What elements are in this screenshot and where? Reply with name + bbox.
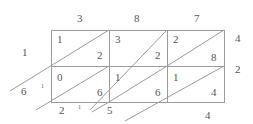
cell-tens: 1 (115, 72, 121, 83)
cell-ones: 6 (155, 87, 161, 98)
multiplier-digit: 2 (235, 64, 241, 75)
multiplicand-digit: 3 (77, 13, 83, 24)
result-digit: 6 (21, 86, 27, 97)
result-digit: 4 (205, 110, 211, 121)
result-digit: 2 (59, 105, 65, 116)
multiplicand-digit: 8 (134, 13, 140, 24)
multiplicand-digit: 7 (194, 13, 200, 24)
cell-ones: 4 (211, 87, 217, 98)
cell-ones: 8 (211, 52, 217, 63)
cell-ones: 2 (155, 50, 161, 61)
carry-digit: 1 (78, 104, 81, 110)
cell-tens: 0 (57, 72, 63, 83)
cell-ones: 6 (97, 87, 103, 98)
carry-digit: 1 (41, 83, 44, 89)
cell-ones: 2 (97, 50, 103, 61)
cell-tens: 1 (57, 34, 63, 45)
result-digit: 5 (107, 105, 113, 116)
cell-tens: 2 (173, 34, 179, 45)
result-digit: 1 (22, 47, 28, 58)
multiplier-digit: 4 (235, 33, 241, 44)
cell-tens: 3 (115, 34, 121, 45)
cell-tens: 1 (173, 72, 179, 83)
